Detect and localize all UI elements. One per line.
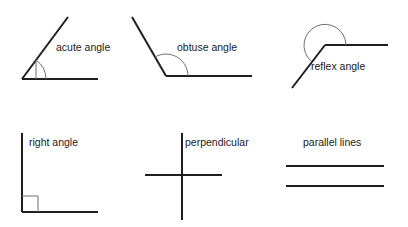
obtuse-angle-label: obtuse angle — [177, 41, 237, 53]
figure-parallel-lines: parallel lines — [286, 136, 384, 186]
figure-right-angle: right angle — [22, 133, 98, 212]
parallel-lines-label: parallel lines — [303, 136, 361, 148]
acute-angle-arc-marker — [36, 60, 46, 79]
right-angle-label: right angle — [29, 136, 78, 148]
obtuse-angle-diagonal-ray — [132, 17, 166, 76]
figure-acute-angle: acute angle — [22, 17, 110, 79]
reflex-angle-label: reflex angle — [311, 60, 365, 72]
right-angle-square-marker — [22, 196, 38, 212]
reflex-angle-arc-marker — [304, 24, 346, 61]
figure-reflex-angle: reflex angle — [292, 24, 388, 88]
figure-perpendicular: perpendicular — [145, 133, 249, 220]
figure-obtuse-angle: obtuse angle — [132, 17, 252, 76]
perpendicular-label: perpendicular — [185, 136, 249, 148]
acute-angle-label: acute angle — [56, 41, 110, 53]
geometry-diagram-canvas: acute angle obtuse angle reflex angle ri… — [0, 0, 408, 227]
